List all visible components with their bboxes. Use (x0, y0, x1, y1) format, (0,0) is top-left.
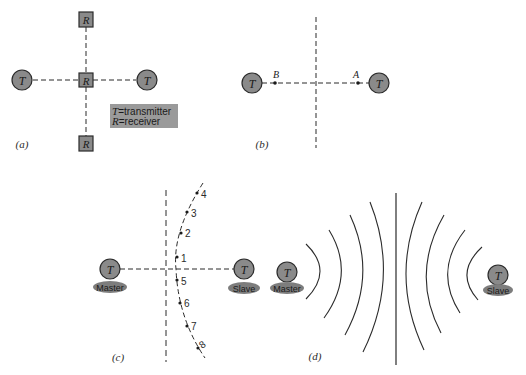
legend-transmitter-text: =transmitter (118, 106, 172, 117)
receiver-node-top: R (79, 12, 93, 27)
transmitter-node-left: T (242, 73, 262, 93)
panel-label-a: (a) (16, 138, 29, 151)
point-label-2: 2 (185, 228, 191, 239)
master-label: Master (273, 284, 301, 294)
slave-label: Slave (487, 286, 510, 296)
panel-b: T T B A (b) (242, 17, 389, 151)
transmitter-node-right: T (369, 73, 389, 93)
diagram-canvas: T T R R R T=transmitter R=receiver ( (0, 0, 526, 375)
point-label-4: 4 (201, 189, 207, 200)
point-b-label: B (273, 69, 279, 80)
point-label-3: 3 (191, 208, 197, 219)
transmitter-node-right: T (137, 70, 157, 90)
panel-label-c: (c) (112, 351, 125, 364)
point-label-5: 5 (181, 276, 187, 287)
slave-station: T Slave (483, 265, 513, 296)
receiver-node-bottom: R (79, 136, 93, 151)
master-station: T Master (270, 262, 304, 294)
legend-box: T=transmitter R=receiver (110, 104, 178, 128)
point-label-1: 1 (181, 253, 187, 264)
slave-label: Slave (233, 284, 256, 294)
transmitter-node-left: T (12, 70, 32, 90)
point-b-dot (273, 81, 277, 85)
point-label-6: 6 (184, 298, 190, 309)
svg-text:T=transmitter: T=transmitter (112, 105, 172, 117)
panel-d: T Master T Slave (d) (270, 193, 513, 365)
point-label-7: 7 (191, 321, 197, 332)
receiver-symbol: R (82, 75, 90, 87)
receiver-node-center: R (79, 73, 93, 87)
point-a-label: A (352, 69, 360, 80)
master-station: T Master (93, 259, 127, 293)
panel-label-d: (d) (309, 350, 322, 363)
wavefront-arcs-right (406, 202, 482, 350)
point-a-dot (356, 81, 360, 85)
panel-c: 4 3 2 1 5 6 7 8 T Master T Slave (c) (93, 183, 260, 364)
panel-a: T T R R R T=transmitter R=receiver ( (12, 12, 178, 151)
svg-text:R=receiver: R=receiver (111, 115, 161, 127)
slave-station: T Slave (228, 259, 260, 294)
receiver-symbol: R (82, 14, 90, 26)
wavefront-arcs-left (306, 202, 383, 352)
receiver-symbol: R (82, 138, 90, 150)
master-label: Master (96, 283, 124, 293)
legend-receiver-text: =receiver (119, 116, 161, 127)
panel-label-b: (b) (256, 138, 269, 151)
